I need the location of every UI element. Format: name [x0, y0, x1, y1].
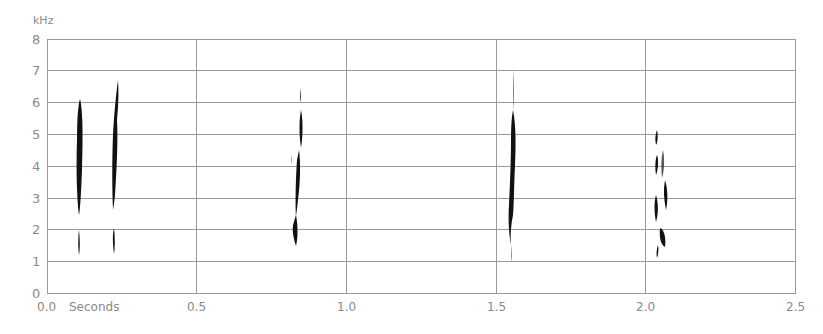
- grid: [47, 39, 796, 294]
- spectrogram-plot: [0, 0, 823, 334]
- note-5: [655, 130, 668, 258]
- note-1: [77, 99, 83, 255]
